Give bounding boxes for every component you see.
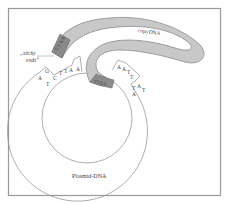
base-letter: G	[45, 68, 49, 74]
sticky-ends-line2: ends“	[26, 57, 39, 63]
plasmid-dna-label: Plasmid-DNA	[72, 173, 107, 179]
base-letter: A	[122, 66, 126, 72]
base-letter: A	[38, 75, 42, 81]
base-letter: A	[76, 66, 80, 72]
base-letter: A	[132, 91, 136, 97]
base-letter: A	[69, 67, 73, 73]
base-letter: A	[137, 83, 141, 89]
diagram-canvas: T T A A TTAA copyDNA „sticky ends“ A G T…	[0, 0, 227, 203]
base-letter: C	[53, 75, 57, 81]
base-letter: A	[117, 64, 121, 70]
sticky-ends-line1: „sticky	[20, 50, 36, 56]
